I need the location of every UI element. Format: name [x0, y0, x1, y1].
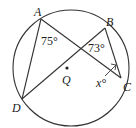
center-dot	[65, 66, 68, 69]
label-b: B	[106, 15, 114, 29]
segment-db	[22, 28, 105, 99]
label-q: Q	[62, 73, 71, 87]
geometry-diagram: A B C D Q 75° 73° x°	[0, 0, 136, 128]
angle-x-label: x°	[95, 76, 106, 90]
angle-intersection-label: 73°	[88, 41, 105, 55]
label-c: C	[123, 80, 132, 94]
segment-ad	[22, 19, 41, 99]
label-a: A	[33, 5, 42, 19]
angle-x-arrow	[105, 65, 116, 76]
label-d: D	[11, 101, 21, 115]
angle-a-label: 75°	[41, 34, 58, 48]
